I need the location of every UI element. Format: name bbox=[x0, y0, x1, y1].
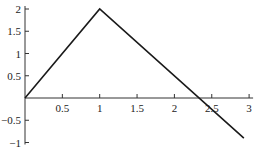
series-line bbox=[25, 9, 244, 138]
x-tick-label: 1 bbox=[97, 102, 103, 114]
y-tick-label: −1 bbox=[9, 137, 21, 149]
x-tick-label: 3 bbox=[246, 102, 252, 114]
x-tick-label: 1.5 bbox=[130, 102, 144, 114]
y-tick-label: 1.5 bbox=[7, 25, 21, 37]
x-tick-label: 0.5 bbox=[55, 102, 69, 114]
y-tick-label: −0.5 bbox=[1, 114, 21, 126]
y-tick-label: 0.5 bbox=[7, 70, 21, 82]
data-series bbox=[25, 9, 244, 138]
x-tick-label: 2 bbox=[172, 102, 178, 114]
x-axis-ticks: 0.511.522.53 bbox=[55, 94, 252, 114]
line-chart: −1−0.50.511.52 0.511.522.53 bbox=[0, 0, 258, 163]
y-tick-label: 2 bbox=[16, 3, 22, 15]
y-tick-label: 1 bbox=[16, 48, 22, 60]
x-tick-label: 2.5 bbox=[205, 102, 219, 114]
